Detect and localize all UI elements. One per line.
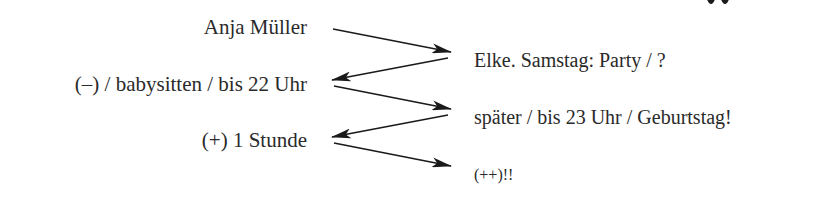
arrow-right-icon	[333, 29, 451, 52]
arrow-left-icon	[332, 58, 448, 80]
dialogue-diagram: Anja Müller (–) / babysitten / bis 22 Uh…	[0, 0, 833, 198]
flow-arrows	[0, 0, 833, 198]
arrow-right-icon	[334, 86, 451, 109]
arrow-left-icon	[332, 115, 448, 137]
arrow-right-icon	[334, 143, 451, 166]
